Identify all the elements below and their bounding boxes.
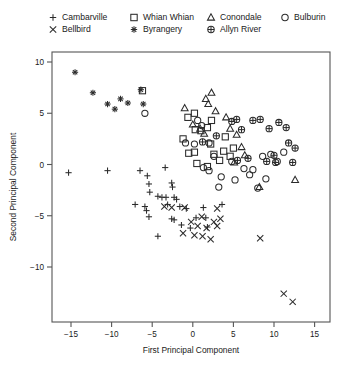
- point-bellbird: [191, 232, 197, 238]
- point-byrangery: [112, 106, 118, 112]
- point-cambarville: [193, 215, 199, 221]
- legend: CambarvilleWhian WhianConondaleBulburinB…: [50, 12, 326, 34]
- x-tick-label: −5: [148, 330, 158, 339]
- legend-marker-plus: [50, 14, 56, 20]
- x-tick-label: 10: [269, 330, 279, 339]
- point-bulburin: [206, 168, 212, 174]
- point-conondale: [181, 105, 188, 111]
- point-allyn-river: [245, 155, 251, 161]
- legend-label: Allyn River: [220, 24, 261, 34]
- point-bellbird: [211, 219, 217, 225]
- point-cambarville: [155, 233, 161, 239]
- point-bulburin: [218, 174, 224, 180]
- y-tick-label: 5: [39, 109, 44, 118]
- series-cambarville: [65, 164, 225, 239]
- legend-marker-cross: [50, 26, 56, 32]
- legend-label: Bulburin: [294, 12, 326, 22]
- point-cambarville: [169, 180, 175, 186]
- point-allyn-river: [250, 117, 256, 123]
- x-axis-title: First Principal Component: [143, 345, 240, 355]
- point-bellbird: [195, 223, 201, 229]
- point-whian-whian: [222, 134, 228, 140]
- point-bulburin: [232, 177, 238, 183]
- point-bellbird: [182, 204, 188, 210]
- point-allyn-river: [286, 140, 292, 146]
- x-tick-label: 5: [231, 330, 236, 339]
- point-cambarville: [147, 189, 153, 195]
- legend-label: Bellbird: [62, 24, 91, 34]
- point-bellbird: [188, 219, 194, 225]
- legend-marker-open-circle: [282, 14, 288, 20]
- point-bulburin: [211, 153, 217, 159]
- legend-label: Conondale: [220, 12, 262, 22]
- point-bellbird: [199, 233, 205, 239]
- point-cambarville: [162, 164, 168, 170]
- y-tick-label: −5: [35, 212, 45, 221]
- point-bellbird: [214, 223, 220, 229]
- point-bellbird: [214, 205, 220, 211]
- point-byrangery: [90, 90, 96, 96]
- point-byrangery: [125, 100, 131, 106]
- point-bellbird: [180, 230, 186, 236]
- point-conondale: [212, 108, 219, 114]
- x-tick-label: 15: [310, 330, 320, 339]
- point-byrangery: [72, 69, 78, 75]
- point-allyn-river: [283, 125, 289, 131]
- point-whian-whian: [208, 117, 214, 123]
- point-allyn-river: [213, 133, 219, 139]
- point-cambarville: [219, 201, 225, 207]
- point-cambarville: [163, 194, 169, 200]
- point-byrangery: [104, 101, 110, 107]
- legend-label: Cambarville: [62, 12, 108, 22]
- point-bulburin: [182, 140, 188, 146]
- point-bellbird: [161, 203, 167, 209]
- point-cambarville: [165, 201, 171, 207]
- x-tick-label: −10: [105, 330, 119, 339]
- point-allyn-river: [290, 159, 296, 165]
- point-cambarville: [187, 225, 193, 231]
- point-bellbird: [208, 236, 214, 242]
- point-cambarville: [142, 203, 148, 209]
- point-bulburin: [216, 184, 222, 190]
- point-bulburin: [142, 110, 148, 116]
- axis-ticks: −15−10−50510151050−5−10: [30, 58, 319, 339]
- point-allyn-river: [292, 145, 298, 151]
- y-tick-label: 0: [39, 161, 44, 170]
- point-bellbird: [199, 214, 205, 220]
- point-conondale: [208, 89, 215, 95]
- y-axis-title: Second Principal Component: [8, 132, 18, 241]
- point-bulburin: [250, 167, 256, 173]
- series-conondale: [181, 89, 298, 189]
- point-bellbird: [169, 204, 175, 210]
- legend-label: Whian Whian: [143, 12, 194, 22]
- point-bulburin: [200, 164, 206, 170]
- point-bellbird: [204, 225, 210, 231]
- point-cambarville: [169, 184, 175, 190]
- data-points: [65, 69, 298, 305]
- point-whian-whian: [204, 163, 210, 169]
- legend-item-whian-whian: Whian Whian: [131, 12, 195, 22]
- point-cambarville: [146, 181, 152, 187]
- legend-marker-open-square: [131, 14, 137, 20]
- legend-item-byrangery: Byrangery: [131, 24, 183, 34]
- point-bulburin: [191, 141, 197, 147]
- point-conondale: [292, 176, 299, 182]
- x-tick-label: −15: [64, 330, 78, 339]
- point-conondale: [227, 125, 234, 131]
- point-allyn-river: [276, 119, 282, 125]
- point-bulburin: [263, 176, 269, 182]
- point-byrangery: [138, 87, 144, 93]
- point-whian-whian: [191, 110, 197, 116]
- series-byrangery: [72, 69, 146, 112]
- scatter-plot-figure: CambarvilleWhian WhianConondaleBulburinB…: [0, 0, 350, 375]
- legend-item-bellbird: Bellbird: [50, 24, 91, 34]
- point-bellbird: [290, 299, 296, 305]
- point-conondale: [256, 183, 263, 189]
- point-cambarville: [155, 193, 161, 199]
- point-bellbird: [257, 235, 263, 241]
- series-whian-whian: [139, 88, 236, 170]
- point-byrangery: [140, 101, 146, 107]
- point-whian-whian: [230, 145, 236, 151]
- point-allyn-river: [266, 126, 272, 132]
- point-byrangery: [117, 96, 123, 102]
